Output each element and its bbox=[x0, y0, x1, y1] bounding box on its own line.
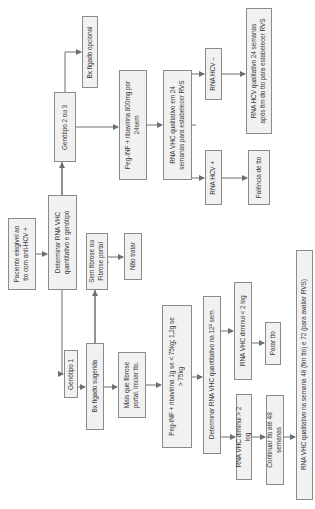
node-do-not-treat: Não tratar bbox=[124, 233, 142, 280]
node-label: RNA HCV qualitativo 24 semanas após fim … bbox=[250, 18, 267, 124]
node-label: RNA VHC qualitativo na semana 48 (fim tt… bbox=[300, 280, 309, 471]
node-label: RNA VHC diminui < 2 log bbox=[239, 296, 248, 367]
node-continue-48wk: Continuar tto até 48 semanas bbox=[266, 395, 284, 485]
node-label: RNA HCV – bbox=[209, 57, 218, 91]
node-determine-rna-12wk: Determinar RNA VHC quantitativo na 12ª s… bbox=[203, 296, 221, 454]
node-label: Peg-INF + ribavirina 1g se < 75kg; 1,2g … bbox=[168, 316, 185, 437]
flowchart-canvas: Paciente elegível ao tto com anti-HCV + … bbox=[0, 0, 315, 509]
node-stop-treatment: Parar tto bbox=[265, 322, 281, 365]
node-label: Bx fígado opcional bbox=[86, 26, 95, 78]
node-more-than-portal-fibrosis: Mais que fibrose portal. Iniciar tto. bbox=[118, 352, 146, 418]
node-biopsy-optional: Bx fígado opcional bbox=[82, 16, 98, 88]
node-rna-qualitative-24wk-after: RNA HCV qualitativo 24 semanas após fim … bbox=[246, 8, 272, 134]
node-biopsy-suggested: Bx fígado sugerida bbox=[86, 343, 104, 430]
node-label: Bx fígado sugerida bbox=[91, 360, 100, 413]
node-label: Paciente elegível ao tto com anti-HCV + bbox=[13, 225, 30, 283]
node-decrease-gt-2log: RNA VHC diminui > 2 log bbox=[236, 394, 252, 480]
node-rna-hcv-positive: RNA HCV + bbox=[205, 150, 222, 205]
node-label: Mais que fibrose portal. Iniciar tto. bbox=[123, 359, 140, 412]
node-label: RNA VHC diminui > 2 log bbox=[235, 402, 252, 472]
node-label: Não tratar bbox=[129, 242, 138, 270]
node-peg-inf-800mg: Peg-INF + ribavirina 800mg por 24sem bbox=[119, 70, 147, 180]
node-rna-qualitative-24wk: RNA VHC qualitativo em 24 semanas para e… bbox=[163, 70, 192, 180]
node-label: Determinar RNA VHC quantitativo na 12ª s… bbox=[208, 311, 217, 440]
node-treatment-failure: Falência de tto bbox=[248, 150, 270, 205]
node-label: Peg-INF + ribavirina 800mg por 24sem bbox=[124, 79, 141, 171]
node-genotype-1: Genótipo 1 bbox=[64, 350, 78, 398]
node-label: Falência de tto bbox=[255, 157, 264, 198]
node-rna-qualitative-48-72: RNA VHC qualitativo na semana 48 (fim tt… bbox=[296, 250, 313, 500]
node-genotype-2-3: Genótipo 2 ou 3 bbox=[54, 92, 76, 162]
node-label: Genótipo 2 ou 3 bbox=[61, 105, 70, 150]
node-patient-eligible: Paciente elegível ao tto com anti-HCV + bbox=[8, 218, 36, 290]
node-label: Sem fibrose ou Fibrose portal bbox=[88, 239, 105, 284]
node-label: RNA HCV + bbox=[209, 161, 218, 195]
node-no-fibrosis: Sem fibrose ou Fibrose portal bbox=[86, 233, 108, 290]
node-label: Genótipo 1 bbox=[67, 359, 76, 390]
node-peg-inf-weight-dose: Peg-INF + ribavirina 1g se < 75kg; 1,2g … bbox=[162, 305, 192, 448]
node-label: Continuar tto até 48 semanas bbox=[266, 403, 283, 477]
node-rna-hcv-negative: RNA HCV – bbox=[205, 48, 222, 100]
node-label: RNA VHC qualitativo em 24 semanas para e… bbox=[169, 79, 186, 171]
node-decrease-lt-2log: RNA VHC diminui < 2 log bbox=[234, 282, 252, 380]
node-label: Determinar RNA VHC quantitativo e genóti… bbox=[54, 203, 71, 281]
node-label: Parar tto bbox=[269, 331, 278, 355]
node-determine-rna-genotype: Determinar RNA VHC quantitativo e genóti… bbox=[48, 195, 77, 290]
